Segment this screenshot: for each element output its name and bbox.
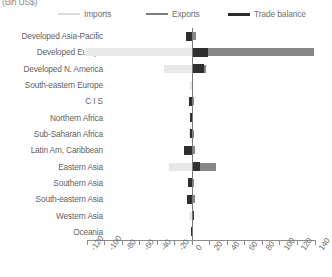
bar-imports <box>85 48 192 56</box>
axis-tick <box>174 240 175 245</box>
legend-swatch-exports <box>146 13 168 15</box>
bar-trade-balance <box>192 48 208 57</box>
unit-label: (Bln US$) <box>2 0 37 7</box>
legend-swatch-imports <box>58 13 80 15</box>
row-bars <box>0 126 321 142</box>
legend-label-exports: Exports <box>172 9 200 19</box>
row-bars <box>0 110 321 126</box>
bar-exports <box>192 48 315 56</box>
chart-row: South-eastern Asia <box>0 191 321 207</box>
axis-tick <box>262 240 263 245</box>
chart-row: Developed Asia-Pacific <box>0 28 321 44</box>
bar-imports <box>164 65 192 73</box>
axis-tick-label: 60 <box>247 240 259 252</box>
axis-tick <box>122 240 123 245</box>
row-bars <box>0 28 321 44</box>
legend-item-trade-balance: Trade balance <box>228 9 306 19</box>
plot-area: Developed Asia-PacificDeveloped EuropeDe… <box>0 28 321 240</box>
axis-tick <box>297 240 298 245</box>
legend-swatch-trade-balance <box>228 13 250 16</box>
axis-tick <box>244 240 245 245</box>
row-bars <box>0 61 321 77</box>
axis-tick <box>192 240 193 245</box>
row-bars <box>0 224 321 240</box>
axis-tick <box>139 240 140 245</box>
chart-row: Eastern Asia <box>0 158 321 174</box>
bar-imports <box>169 163 192 171</box>
chart-row: Sub-Saharan Africa <box>0 126 321 142</box>
axis-tick <box>315 240 316 245</box>
row-bars <box>0 191 321 207</box>
chart-row: South-eastern Europe <box>0 77 321 93</box>
chart-legend: Imports Exports Trade balance <box>0 9 321 22</box>
x-axis: -120-100-80-60-40-20020406080100120140 <box>0 240 321 277</box>
axis-tick <box>157 240 158 245</box>
chart-row: Western Asia <box>0 207 321 223</box>
axis-tick-label: 40 <box>229 240 241 252</box>
row-bars <box>0 207 321 223</box>
axis-tick <box>279 240 280 245</box>
axis-tick <box>209 240 210 245</box>
axis-tick-label: 80 <box>264 240 276 252</box>
chart-row: Developed N. America <box>0 61 321 77</box>
row-bars <box>0 77 321 93</box>
bar-rows: Developed Asia-PacificDeveloped EuropeDe… <box>0 28 321 240</box>
row-bars <box>0 93 321 109</box>
row-bars <box>0 44 321 60</box>
legend-item-exports: Exports <box>146 9 200 19</box>
zero-axis-line <box>192 28 193 240</box>
legend-label-trade-balance: Trade balance <box>254 9 306 19</box>
bar-trade-balance <box>192 162 201 171</box>
axis-tick <box>227 240 228 245</box>
chart-row: Northern Africa <box>0 110 321 126</box>
chart-row: Oceania <box>0 224 321 240</box>
chart-row: Latin Am, Caribbean <box>0 142 321 158</box>
axis-tick-label: 20 <box>212 240 224 252</box>
legend-item-imports: Imports <box>58 9 111 19</box>
axis-tick <box>104 240 105 245</box>
chart-row: Southern Asia <box>0 175 321 191</box>
axis-tick <box>87 240 88 245</box>
legend-label-imports: Imports <box>84 9 111 19</box>
chart-row: C I S <box>0 93 321 109</box>
row-bars <box>0 158 321 174</box>
axis-tick-label: 0 <box>194 243 204 252</box>
bar-trade-balance <box>192 64 204 73</box>
bar-trade-balance <box>184 146 192 155</box>
chart-row: Developed Europe <box>0 44 321 60</box>
row-bars <box>0 175 321 191</box>
row-bars <box>0 142 321 158</box>
